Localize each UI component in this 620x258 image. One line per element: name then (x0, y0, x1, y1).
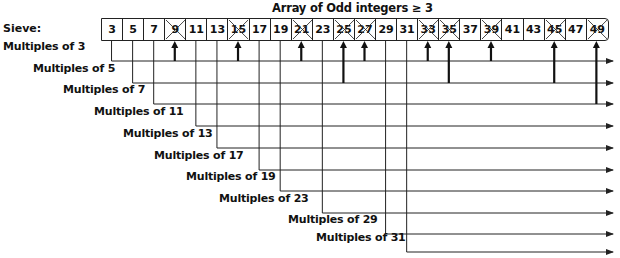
cross-out-icon (439, 19, 460, 40)
sieve-diagram: Array of Odd integers ≥ 3 Sieve: 3579111… (0, 0, 620, 258)
array-cell: 5 (123, 19, 144, 40)
cell-value: 5 (129, 23, 137, 36)
cross-out-icon (481, 19, 502, 40)
cross-out-icon (292, 19, 313, 40)
multiples-label: Multiples of 11 (94, 105, 184, 118)
cell-value: 19 (273, 23, 288, 36)
cross-out-icon (545, 19, 566, 40)
arrow-head-icon (551, 41, 558, 48)
cell-value: 11 (189, 23, 204, 36)
arrow-head-icon (235, 41, 242, 48)
array-cell-crossed: 49 (587, 19, 608, 40)
array-cell-crossed: 9 (165, 19, 186, 40)
array-cell-crossed: 45 (545, 19, 566, 40)
arrow-head-icon (445, 41, 452, 48)
cell-value: 13 (210, 23, 225, 36)
arrow-head-icon (171, 41, 178, 48)
arrow-head-icon (487, 41, 494, 48)
multiples-label: Multiples of 19 (186, 170, 276, 183)
array-cell-crossed: 15 (228, 19, 249, 40)
array-cell: 7 (144, 19, 165, 40)
multiples-label: Multiples of 17 (154, 149, 244, 162)
array-cell: 19 (271, 19, 292, 40)
cross-out-icon (418, 19, 439, 40)
cross-out-icon (355, 19, 376, 40)
array-cell: 23 (313, 19, 334, 40)
multiples-label: Multiples of 29 (288, 213, 378, 226)
multiples-label: Multiples of 7 (63, 83, 145, 96)
array-cell: 11 (186, 19, 207, 40)
cell-value: 7 (150, 23, 158, 36)
cell-value: 29 (378, 23, 393, 36)
multiples-label: Multiples of 3 (3, 40, 85, 53)
array-cell: 31 (397, 19, 418, 40)
cross-out-icon (228, 19, 249, 40)
multiples-label: Multiples of 23 (219, 192, 309, 205)
cell-value: 43 (526, 23, 541, 36)
cross-out-icon (334, 19, 355, 40)
array-cell-crossed: 39 (481, 19, 502, 40)
array-cell: 41 (502, 19, 523, 40)
cross-out-icon (587, 19, 608, 40)
array-cell: 47 (566, 19, 587, 40)
arrow-head-icon (424, 41, 431, 48)
arrow-head-icon (298, 41, 305, 48)
arrow-head-icon (340, 41, 347, 48)
cell-value: 41 (505, 23, 520, 36)
cell-value: 23 (315, 23, 330, 36)
array-cell-crossed: 27 (355, 19, 376, 40)
cell-value: 37 (463, 23, 478, 36)
odd-integer-array: 3579111315171921232527293133353739414345… (101, 18, 609, 41)
array-cell-crossed: 21 (292, 19, 313, 40)
array-cell: 17 (250, 19, 271, 40)
arrow-head-icon (593, 41, 600, 48)
array-cell: 13 (207, 19, 228, 40)
array-cell: 29 (376, 19, 397, 40)
array-cell-crossed: 25 (334, 19, 355, 40)
cell-value: 31 (399, 23, 414, 36)
cross-out-icon (165, 19, 186, 40)
multiples-label: Multiples of 13 (123, 127, 213, 140)
cell-value: 47 (568, 23, 583, 36)
array-cell: 3 (102, 19, 123, 40)
multiples-label: Multiples of 5 (33, 62, 115, 75)
arrow-head-icon (361, 41, 368, 48)
array-cell: 43 (524, 19, 545, 40)
cell-value: 17 (252, 23, 267, 36)
array-cell-crossed: 35 (439, 19, 460, 40)
array-cell: 37 (460, 19, 481, 40)
cell-value: 3 (108, 23, 116, 36)
array-cell-crossed: 33 (418, 19, 439, 40)
multiples-label: Multiples of 31 (316, 231, 406, 244)
